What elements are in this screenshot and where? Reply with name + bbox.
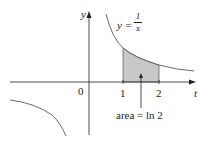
y-axis-arrow-icon (87, 11, 92, 18)
origin-label: 0 (78, 86, 84, 97)
function-numerator: 1 (134, 12, 142, 21)
graph (0, 0, 202, 143)
tick-label-1: 1 (120, 88, 126, 99)
area-annotation: area = ln 2 (116, 110, 163, 121)
y-axis-label: y (81, 9, 86, 20)
x-axis-arrow-icon (189, 80, 196, 85)
function-lhs: y = (117, 20, 132, 31)
x-axis-label: t (194, 88, 197, 99)
tick-label-2: 2 (156, 88, 162, 99)
function-denominator: x (134, 24, 142, 33)
curve-negative-branch (10, 100, 66, 136)
